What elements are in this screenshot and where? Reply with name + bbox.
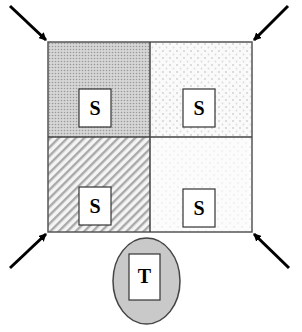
arrow-top-left-icon — [10, 6, 46, 40]
s-node-top-left: S — [79, 89, 111, 127]
svg-text:S: S — [89, 195, 100, 217]
arrow-bottom-left-icon — [10, 234, 46, 268]
svg-text:S: S — [89, 97, 100, 119]
svg-text:S: S — [193, 197, 204, 219]
arrow-bottom-right-icon — [254, 234, 289, 268]
arrow-top-right-icon — [254, 6, 288, 40]
s-node-top-right: S — [183, 89, 215, 127]
diagram-canvas: S S S S T — [0, 0, 302, 332]
s-node-bottom-right: S — [183, 189, 215, 227]
svg-text:S: S — [193, 97, 204, 119]
s-node-bottom-left: S — [79, 187, 111, 225]
svg-text:T: T — [138, 265, 152, 287]
t-node: T — [113, 238, 180, 324]
